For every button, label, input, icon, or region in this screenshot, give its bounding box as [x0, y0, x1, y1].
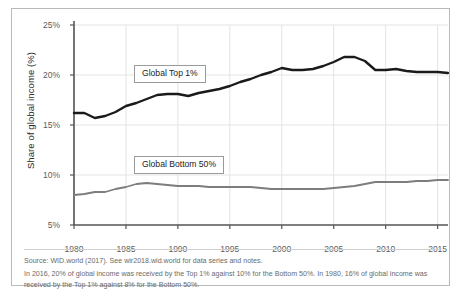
note-source: Source: WID.world (2017). See wir2018.wi… [24, 256, 439, 266]
plot-area: Share of global income (%) 5%10%15%20%25… [12, 9, 449, 241]
y-tick-5: 5% [26, 220, 60, 230]
callout-global-top-1: Global Top 1% [134, 65, 206, 83]
series-lines [74, 57, 448, 195]
note-description: In 2016, 20% of global income was receiv… [24, 269, 439, 290]
figure-container: Share of global income (%) 5%10%15%20%25… [11, 8, 450, 286]
gridlines [74, 25, 448, 225]
y-tick-10: 10% [26, 170, 60, 180]
chart-canvas [64, 15, 449, 241]
y-axis-tick-labels: 5%10%15%20%25% [26, 9, 60, 241]
y-tick-25: 25% [26, 20, 60, 30]
y-tick-15: 15% [26, 120, 60, 130]
notes-divider [24, 249, 439, 250]
y-tick-20: 20% [26, 70, 60, 80]
callout-global-bottom-50: Global Bottom 50% [134, 156, 224, 174]
footnotes: Source: WID.world (2017). See wir2018.wi… [24, 249, 439, 293]
